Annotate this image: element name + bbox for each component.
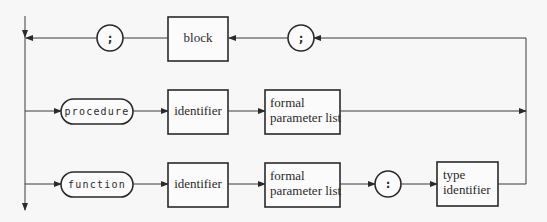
procedure-keyword: procedure — [65, 106, 130, 117]
semicolon-left: ; — [106, 31, 113, 45]
type-identifier-line1: type — [443, 167, 466, 182]
function-identifier-label: identifier — [174, 176, 222, 191]
top-row: ; block ; — [26, 17, 526, 61]
procedure-params-line1: formal — [270, 95, 305, 110]
block-label: block — [184, 30, 213, 45]
function-params-line2: parameter list — [270, 183, 341, 198]
arrow-down-icon — [22, 30, 28, 38]
procedure-params-line2: parameter list — [270, 110, 341, 125]
procedure-identifier-label: identifier — [174, 103, 222, 118]
procedure-row: procedure identifier formal parameter li… — [25, 90, 526, 134]
function-keyword: function — [68, 179, 126, 190]
function-row: function identifier formal parameter lis… — [25, 162, 526, 207]
syntax-diagram: ; block ; procedure identifier formal pa… — [0, 0, 547, 222]
arrow-down-icon — [22, 203, 28, 211]
type-identifier-line2: identifier — [443, 182, 491, 197]
main-trunk — [22, 16, 28, 211]
function-params-line1: formal — [270, 168, 305, 183]
colon: : — [384, 177, 391, 191]
semicolon-right: ; — [297, 31, 304, 45]
